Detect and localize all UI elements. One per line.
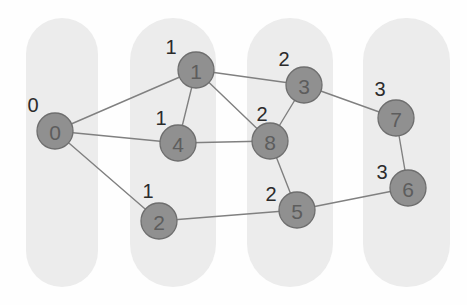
node-color-label-0: 0 — [27, 94, 38, 116]
graph-node-7[interactable]: 7 — [378, 100, 414, 136]
graph-node-label-5: 5 — [291, 200, 303, 223]
graph-node-6[interactable]: 6 — [390, 170, 426, 206]
graph-node-2[interactable]: 2 — [141, 203, 177, 239]
node-color-label-1: 1 — [165, 36, 176, 58]
graph-node-3[interactable]: 3 — [286, 67, 322, 103]
graph-coloring-figure: 014238576 011122233 — [0, 0, 467, 305]
node-color-label-2: 1 — [142, 180, 153, 202]
graph-node-1[interactable]: 1 — [178, 52, 214, 88]
graph-node-label-7: 7 — [390, 108, 402, 131]
graph-node-5[interactable]: 5 — [279, 192, 315, 228]
node-color-label-3: 2 — [278, 48, 289, 70]
graph-node-0[interactable]: 0 — [37, 113, 73, 149]
color-class-capsule-3 — [363, 18, 450, 287]
graph-diagram-canvas: 014238576 011122233 — [0, 0, 467, 305]
graph-node-label-2: 2 — [153, 211, 165, 234]
graph-node-label-6: 6 — [402, 178, 414, 201]
color-class-capsule-0 — [26, 18, 98, 287]
graph-node-label-3: 3 — [298, 75, 310, 98]
graph-node-label-4: 4 — [172, 133, 184, 156]
node-color-label-8: 2 — [256, 103, 267, 125]
graph-node-label-0: 0 — [49, 121, 61, 144]
graph-node-label-1: 1 — [190, 60, 202, 83]
graph-node-8[interactable]: 8 — [252, 123, 288, 159]
color-class-capsule-group — [26, 18, 450, 287]
node-color-label-7: 3 — [374, 78, 385, 100]
graph-node-label-8: 8 — [264, 131, 276, 154]
node-color-label-5: 2 — [265, 183, 276, 205]
graph-edge-group — [55, 70, 408, 221]
node-color-label-6: 3 — [376, 161, 387, 183]
node-color-label-4: 1 — [155, 107, 166, 129]
graph-node-4[interactable]: 4 — [160, 125, 196, 161]
